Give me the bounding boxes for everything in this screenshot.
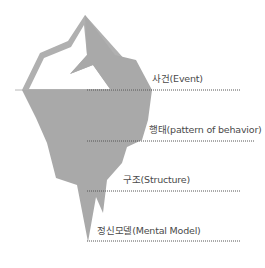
label-pattern-of-behavior: 행태(pattern of behavior) [149,124,262,135]
label-mental-model: 정신모델(Mental Model) [97,225,201,236]
label-structure: 구조(Structure) [123,174,190,185]
label-event: 사건(Event) [152,73,203,84]
iceberg-underwater [22,90,152,242]
